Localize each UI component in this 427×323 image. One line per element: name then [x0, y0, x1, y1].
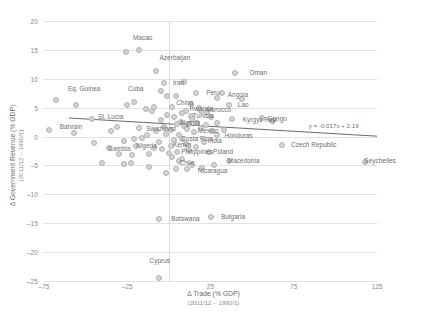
point-label: Czech Republic: [291, 141, 336, 148]
point-label: Nigeria: [136, 142, 157, 149]
data-point[interactable]: [136, 47, 142, 53]
data-point[interactable]: [121, 161, 127, 167]
point-label: Cyprus: [150, 257, 171, 264]
data-point[interactable]: [123, 49, 129, 55]
x-axis-tick-label: 25: [191, 283, 231, 290]
data-point[interactable]: [108, 128, 114, 134]
point-label: Botswana: [171, 215, 199, 222]
data-point[interactable]: [128, 160, 134, 166]
data-point[interactable]: [163, 170, 169, 176]
y-axis-title: Δ Government Revenue (% GDP): [9, 36, 16, 276]
point-label: Macao: [133, 34, 152, 41]
point-label: Bahrain: [60, 123, 82, 130]
data-point[interactable]: [156, 216, 162, 222]
data-point[interactable]: [279, 142, 285, 148]
point-label: Eq. Guinea: [68, 85, 100, 92]
y-axis-tick-label: 5: [6, 104, 38, 111]
point-label: Oman: [249, 69, 267, 76]
point-label: Poland: [213, 148, 233, 155]
point-label: Seychelles: [364, 157, 395, 164]
data-point[interactable]: [151, 104, 157, 110]
data-point[interactable]: [53, 97, 59, 103]
y-axis-subtitle: (2011/12 – 1990/1): [17, 36, 24, 276]
point-label: Angola: [228, 91, 248, 98]
y-axis-tick-label: 0: [6, 133, 38, 140]
y-axis-tick-label: 20: [6, 18, 38, 25]
point-label: Chile: [180, 159, 195, 166]
data-point[interactable]: [174, 149, 180, 155]
point-label: Bulgaria: [221, 213, 245, 220]
x-axis-tick-label: 75: [274, 283, 314, 290]
point-label: Algeria: [180, 119, 200, 126]
point-label: Gambia: [108, 145, 131, 152]
data-point[interactable]: [144, 132, 150, 138]
data-point[interactable]: [219, 90, 225, 96]
data-point[interactable]: [169, 104, 175, 110]
data-point[interactable]: [136, 125, 142, 131]
data-point[interactable]: [89, 116, 95, 122]
y-axis-tick-label: –5: [6, 162, 38, 169]
y-axis-tick-label: 10: [6, 75, 38, 82]
data-point[interactable]: [153, 68, 159, 74]
point-label: Macedonia: [228, 157, 260, 164]
data-point[interactable]: [214, 120, 220, 126]
y-axis-tick-label: –20: [6, 249, 38, 256]
data-point[interactable]: [46, 127, 52, 133]
point-label: Congo: [268, 115, 287, 122]
data-point[interactable]: [121, 138, 127, 144]
data-point[interactable]: [131, 99, 137, 105]
point-label: Swaziland: [146, 125, 176, 132]
point-label: Nicaragua: [198, 167, 228, 174]
point-label: Philippines: [181, 148, 212, 155]
gridline-y: [44, 281, 377, 282]
data-point[interactable]: [146, 164, 152, 170]
data-point[interactable]: [143, 106, 149, 112]
x-axis-subtitle: (2011/12 – 1990/1): [0, 299, 427, 306]
y-axis-tick-label: 15: [6, 46, 38, 53]
point-label: Lao: [238, 101, 249, 108]
data-point[interactable]: [208, 214, 214, 220]
y-axis-tick-label: –10: [6, 191, 38, 198]
data-point[interactable]: [156, 275, 162, 281]
y-axis-tick-label: –15: [6, 220, 38, 227]
point-label: Iran: [173, 79, 184, 86]
data-point[interactable]: [158, 88, 164, 94]
point-label: Honduras: [224, 132, 252, 139]
point-label: Tunisia: [193, 112, 214, 119]
point-label: St. Lucia: [98, 113, 123, 120]
data-point[interactable]: [164, 93, 170, 99]
point-label: Azerbaijan: [160, 54, 191, 61]
point-label: India: [208, 137, 222, 144]
data-point[interactable]: [71, 130, 77, 136]
x-axis-tick-label: 125: [357, 283, 397, 290]
scatter-chart: Δ Government Revenue (% GDP) (2011/12 – …: [0, 0, 427, 323]
point-label: Peru: [206, 89, 220, 96]
data-point[interactable]: [193, 90, 199, 96]
x-axis-tick-label: –75: [24, 283, 64, 290]
x-axis-tick-label: –25: [107, 283, 147, 290]
trendline-equation: y = -0.017x + 2.19: [309, 122, 359, 129]
x-axis-title: Δ Trade (% GDP): [0, 290, 427, 297]
point-label: Mexico: [198, 127, 219, 134]
data-point[interactable]: [158, 117, 164, 123]
data-point[interactable]: [173, 166, 179, 172]
data-point[interactable]: [164, 112, 170, 118]
data-point[interactable]: [73, 102, 79, 108]
point-label: Cuba: [128, 85, 143, 92]
